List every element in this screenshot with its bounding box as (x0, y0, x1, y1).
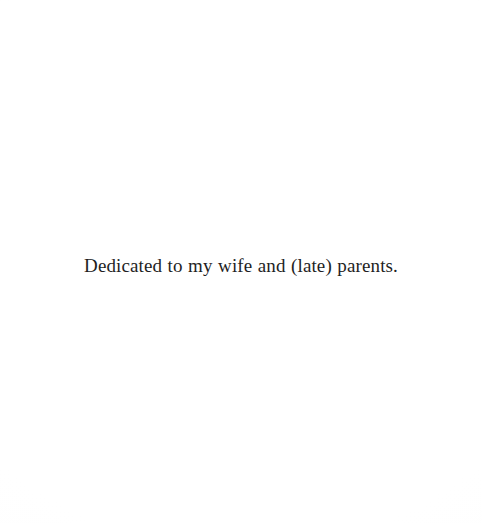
dedication-block: Dedicated to my wife and (late) parents. (0, 254, 482, 278)
dedication-text: Dedicated to my wife and (late) parents. (84, 254, 398, 278)
dedication-page: Dedicated to my wife and (late) parents. (0, 0, 482, 523)
